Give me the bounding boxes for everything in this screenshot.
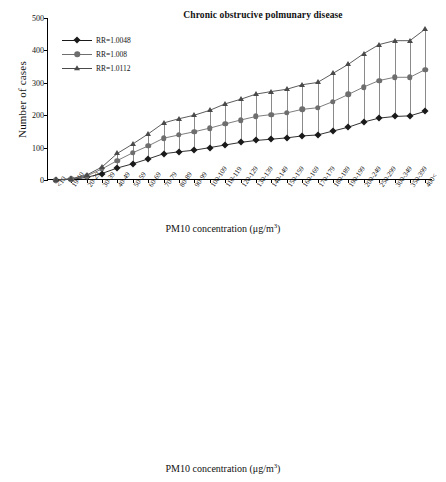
y-axis-tick-label: 400 — [32, 46, 44, 55]
legend-top: RR=1.0048RR=1.008RR=1.0112 — [62, 33, 131, 75]
x-axis-title-bottom: PM10 concentration (μg/m3) — [0, 462, 446, 474]
legend-item[interactable]: RR=1.0112 — [62, 61, 131, 75]
legend-item[interactable]: RR=1.008 — [62, 47, 131, 61]
x-axis-title-top: PM10 concentration (μg/m3) — [0, 222, 446, 234]
data-point — [361, 51, 367, 56]
data-point — [284, 86, 290, 91]
chart-panel-bottom: Respiratory mortality Number of cases 02… — [0, 241, 446, 482]
legend-label: RR=1.0112 — [96, 64, 131, 73]
data-point — [161, 135, 167, 141]
data-point — [145, 131, 151, 136]
data-point — [346, 92, 352, 98]
data-point — [407, 38, 413, 43]
data-point — [84, 172, 90, 177]
data-point — [176, 132, 182, 138]
data-point — [299, 82, 305, 87]
series-line — [56, 70, 426, 180]
y-axis-tick-label: 300 — [32, 78, 44, 87]
data-point — [361, 84, 367, 90]
y-axis-tick-label: 500 — [32, 14, 44, 23]
data-point — [238, 96, 244, 101]
data-point — [407, 75, 413, 81]
legend-line — [62, 68, 92, 69]
legend-marker-diamond-icon — [73, 36, 80, 43]
data-point — [130, 150, 136, 156]
y-axis-tick — [44, 180, 48, 181]
y-axis-tick-label: 0 — [40, 176, 44, 185]
x-axis-title-text: PM10 concentration (μg/m — [166, 463, 274, 474]
data-point — [114, 150, 120, 155]
data-point — [253, 114, 259, 120]
data-point — [315, 105, 321, 111]
data-point — [392, 38, 398, 43]
data-point — [115, 158, 121, 164]
data-point — [315, 79, 321, 84]
data-point — [191, 112, 197, 117]
data-point — [145, 143, 151, 149]
data-point — [192, 129, 198, 135]
data-point — [130, 141, 136, 146]
data-point — [330, 99, 336, 105]
chart-panel-top: Chronic obstrucive polmunary disease Num… — [0, 0, 446, 241]
data-point — [68, 176, 74, 181]
data-point — [161, 120, 167, 125]
data-point — [222, 121, 228, 127]
data-point — [284, 110, 290, 116]
legend-marker-triangle-icon — [74, 65, 80, 70]
data-point — [207, 125, 213, 131]
data-point — [299, 107, 305, 113]
data-point — [53, 177, 59, 182]
y-axis-tick-label: 100 — [32, 143, 44, 152]
data-point — [99, 164, 105, 169]
data-point — [376, 42, 382, 47]
data-point — [376, 78, 382, 84]
x-axis-title-text: PM10 concentration (μg/m — [166, 223, 274, 234]
data-point — [392, 75, 398, 81]
data-point — [222, 101, 228, 106]
data-point — [238, 117, 244, 123]
legend-item[interactable]: RR=1.0048 — [62, 33, 131, 47]
legend-marker-circle-icon — [74, 51, 80, 57]
x-axis-title-tail: ) — [277, 223, 280, 234]
data-point — [330, 70, 336, 75]
data-point — [253, 91, 259, 96]
legend-label: RR=1.0048 — [96, 36, 131, 45]
data-point — [269, 112, 275, 118]
y-axis-tick-label: 200 — [32, 111, 44, 120]
data-point — [176, 116, 182, 121]
data-point — [422, 26, 428, 31]
x-axis-title-tail: ) — [277, 463, 280, 474]
legend-line — [62, 40, 92, 41]
data-point — [207, 107, 213, 112]
data-point — [423, 67, 429, 73]
figure-container: Chronic obstrucive polmunary disease Num… — [0, 0, 446, 482]
data-point — [268, 89, 274, 94]
data-point — [345, 61, 351, 66]
y-axis-title-top: Number of cases — [16, 61, 28, 138]
legend-label: RR=1.008 — [96, 50, 127, 59]
legend-line — [62, 54, 92, 55]
